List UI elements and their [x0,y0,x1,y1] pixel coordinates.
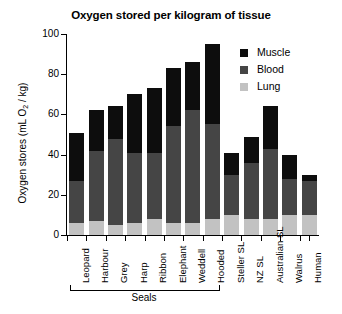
bar-leopard [69,133,84,236]
bar-segment-blood [69,181,84,223]
legend-item-muscle: Muscle [240,44,290,61]
y-axis-label-subscript: 2 [22,105,29,109]
legend-item-blood: Blood [240,61,290,78]
y-tick-label-80: 80 [33,69,59,79]
bar-weddell [185,62,200,235]
bar-segment-muscle [302,175,317,181]
y-axis-label: Oxygen stores (mL O2 / kg) [16,68,30,218]
x-tick-1 [86,236,87,241]
legend-label-muscle: Muscle [257,47,290,58]
x-tick-8 [222,236,223,241]
bar-segment-blood [263,149,278,219]
x-label-grey: Grey [119,262,129,283]
y-axis-label-pre: Oxygen stores (mL O [17,109,28,204]
y-tick-label-20: 20 [33,190,59,200]
bar-ribbon [147,88,162,235]
legend-item-lung: Lung [240,78,290,95]
x-tick-4 [145,236,146,241]
legend-label-blood: Blood [257,64,284,75]
y-tick-label-60: 60 [33,109,59,119]
chart-title: Oxygen stored per kilogram of tissue [0,9,342,21]
bar-segment-blood [147,153,162,219]
x-label-steller-sl: Steller SL [236,242,246,283]
bar-hooded [205,44,220,235]
bar-segment-blood [89,151,104,221]
x-label-leopard: Leopard [81,248,91,283]
bar-segment-lung [127,223,142,235]
bar-grey [108,106,123,235]
x-tick-3 [125,236,126,241]
x-tick-end [309,236,310,241]
bar-segment-muscle [89,110,104,150]
bar-segment-lung [89,221,104,235]
x-label-australian-sl: Australian SL [275,226,285,283]
bar-steller-sl [224,153,239,235]
x-label-harp: Harp [139,262,149,283]
bar-segment-muscle [244,137,259,163]
bar-segment-lung [185,223,200,235]
bar-segment-lung [166,223,181,235]
x-tick-9 [241,236,242,241]
x-tick-12 [300,236,301,241]
bar-segment-muscle [263,106,278,148]
legend-swatch-muscle-icon [240,49,248,57]
bar-segment-muscle [166,68,181,126]
seals-group-label: Seals [70,292,218,303]
bar-nz-sl [244,137,259,235]
bar-segment-lung [108,225,123,235]
bar-harp [127,94,142,235]
bar-segment-lung [244,219,259,235]
bar-segment-muscle [108,106,123,138]
y-axis-label-post: / kg) [17,83,28,105]
bar-segment-lung [147,219,162,235]
y-tick-label-40: 40 [33,150,59,160]
bar-segment-muscle [224,153,239,175]
x-tick-6 [183,236,184,241]
x-label-weddell: Weddell [197,249,207,283]
x-label-hooded: Hooded [216,250,226,283]
x-tick-0 [67,236,68,241]
bar-segment-blood [185,110,200,223]
x-label-elephant: Elephant [178,245,188,283]
x-tick-10 [261,236,262,241]
bar-segment-lung [302,215,317,235]
bar-segment-blood [224,175,239,215]
x-tick-7 [203,236,204,241]
x-tick-2 [106,236,107,241]
seals-group-bracket [70,285,220,291]
bar-walrus [282,155,297,235]
y-tick-label-0: 0 [33,230,59,240]
x-label-human: Human [313,252,323,283]
bar-segment-blood [282,179,297,215]
bar-segment-blood [302,181,317,215]
bar-segment-muscle [282,155,297,179]
bar-segment-lung [205,219,220,235]
y-tick-label-100: 100 [33,29,59,39]
bar-segment-blood [244,163,259,219]
chart-legend: MuscleBloodLung [240,44,290,95]
chart-figure: Oxygen stored per kilogram of tissue Oxy… [0,0,342,314]
bar-segment-muscle [205,44,220,124]
bar-segment-lung [224,215,239,235]
x-label-walrus: Walrus [294,254,304,283]
bar-segment-blood [108,139,123,225]
bar-elephant [166,68,181,235]
bar-harbour [89,110,104,235]
legend-swatch-lung-icon [240,83,248,91]
x-label-ribbon: Ribbon [158,253,168,283]
bar-human [302,175,317,235]
bar-segment-blood [205,124,220,218]
x-label-harbour: Harbour [100,249,110,283]
x-label-nz-sl: NZ SL [255,256,265,283]
x-tick-5 [164,236,165,241]
legend-swatch-blood-icon [240,66,248,74]
bar-segment-lung [69,223,84,235]
bar-segment-muscle [147,88,162,152]
legend-label-lung: Lung [257,81,280,92]
bar-australian-sl [263,106,278,235]
bar-segment-muscle [127,94,142,152]
bar-segment-blood [166,126,181,222]
bar-segment-muscle [69,133,84,181]
bar-segment-muscle [185,62,200,110]
bar-segment-blood [127,153,142,223]
